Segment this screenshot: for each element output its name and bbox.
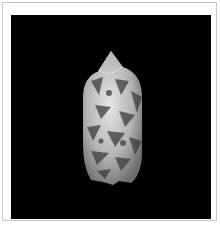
shell-illustration xyxy=(11,15,211,219)
shell-photo xyxy=(11,15,211,219)
